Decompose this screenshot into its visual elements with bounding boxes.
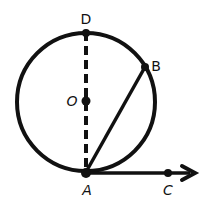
chord-ab [86, 67, 145, 172]
label-d: D [81, 11, 92, 27]
label-c: C [163, 182, 173, 198]
point-c [164, 169, 172, 177]
label-o: O [66, 93, 77, 109]
point-d [82, 29, 90, 37]
point-b [141, 63, 149, 71]
label-a: A [81, 182, 92, 198]
geometry-diagram: D O B A C [0, 0, 207, 203]
label-b: B [151, 58, 161, 74]
point-o [82, 97, 91, 106]
point-a [81, 168, 91, 178]
